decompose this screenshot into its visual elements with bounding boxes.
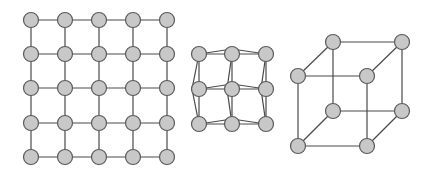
lattice-node xyxy=(24,81,39,96)
lattice-node xyxy=(126,13,141,28)
lattice-node xyxy=(326,104,341,119)
lattice-node xyxy=(24,116,39,131)
lattice-node xyxy=(160,116,175,131)
diagram-svg xyxy=(0,0,431,177)
lattice-node xyxy=(92,13,107,28)
lattice-node xyxy=(160,47,175,62)
lattice-node xyxy=(24,13,39,28)
lattice-diagram xyxy=(0,0,431,177)
lattice-node xyxy=(192,47,207,62)
lattice-node xyxy=(192,82,207,97)
cube-lattice-figure xyxy=(291,35,410,154)
lattice-node xyxy=(291,139,306,154)
lattice-node xyxy=(58,47,73,62)
lattice-node xyxy=(192,117,207,132)
lattice-node xyxy=(126,116,141,131)
lattice-node xyxy=(92,81,107,96)
lattice-node xyxy=(259,82,274,97)
lattice-node xyxy=(58,116,73,131)
lattice-node xyxy=(92,150,107,165)
lattice-node xyxy=(160,13,175,28)
lattice-node xyxy=(92,47,107,62)
lattice-node xyxy=(126,81,141,96)
square-lattice-figure xyxy=(24,13,175,165)
lattice-node xyxy=(225,117,240,132)
lattice-node xyxy=(395,104,410,119)
distorted-lattice-figure xyxy=(192,47,274,132)
lattice-node xyxy=(126,150,141,165)
lattice-node xyxy=(24,150,39,165)
lattice-node xyxy=(291,69,306,84)
lattice-node xyxy=(326,35,341,50)
lattice-node xyxy=(58,13,73,28)
lattice-node xyxy=(126,47,141,62)
lattice-node xyxy=(160,81,175,96)
lattice-node xyxy=(259,117,274,132)
lattice-node xyxy=(225,82,240,97)
lattice-node xyxy=(360,69,375,84)
lattice-node xyxy=(58,150,73,165)
lattice-node xyxy=(92,116,107,131)
lattice-node xyxy=(395,35,410,50)
lattice-node xyxy=(24,47,39,62)
lattice-node xyxy=(58,81,73,96)
lattice-node xyxy=(225,47,240,62)
lattice-node xyxy=(160,150,175,165)
lattice-node xyxy=(259,47,274,62)
lattice-node xyxy=(360,139,375,154)
